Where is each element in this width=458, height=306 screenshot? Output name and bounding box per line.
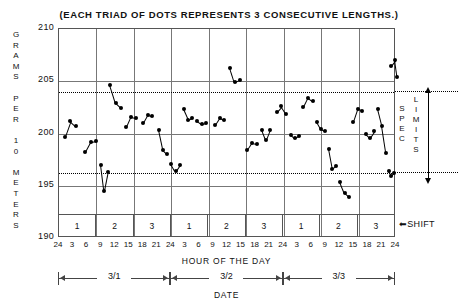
limits-letter: T [411,135,421,145]
limits-letter: L [411,95,421,105]
data-point [190,116,194,120]
y-axis-title-letter: R [10,115,22,126]
data-point [327,147,331,151]
date-axis-title: DATE [58,290,395,300]
y-axis-title-letter: M [10,168,22,179]
limits-letter: S [411,145,421,155]
data-point [260,128,264,132]
data-point [330,167,334,171]
data-point [338,180,342,184]
data-point [384,151,388,155]
lower-spec-extension [395,172,458,173]
y-axis-title-letter: S [10,221,22,232]
shift-row-label: ⬅SHIFT [399,219,435,229]
data-point [134,116,138,120]
data-point [297,134,301,138]
arrow-down-head [425,178,431,184]
x-axis-ticks: 2436912151821243691215182124369121518212… [58,240,395,252]
data-point [174,169,178,173]
data-point [83,150,87,154]
data-point [376,107,380,111]
data-point [351,120,355,124]
spec-label: SPEC [397,104,407,144]
data-point [306,96,310,100]
date-arrow-right [388,275,393,281]
data-point [94,139,98,143]
shift-cell: 2 [207,215,244,236]
shift-cell: 3 [357,215,394,236]
spec-limits-arrow [428,92,429,179]
data-point [106,170,110,174]
data-point [389,64,393,68]
shift-cell: 2 [319,215,356,236]
upper-spec-limit-line [59,92,394,93]
gridline-horizontal [59,134,394,135]
y-tick-label: 210 [28,22,54,32]
y-axis-title-letter [10,83,22,94]
spec-letter: E [397,124,407,134]
data-point [141,121,145,125]
spec-letter: C [397,134,407,144]
data-point [347,195,351,199]
gridline-vertical [134,29,135,236]
data-point [343,191,347,195]
shift-cell: 1 [59,215,95,236]
y-axis-title-letter: E [10,178,22,189]
y-axis-title-letter: R [10,41,22,52]
y-axis-title-letter: 0 [10,147,22,158]
y-axis-title-letter: G [10,30,22,41]
shift-cell: 2 [95,215,132,236]
y-tick-label: 195 [28,179,54,189]
y-axis-title-letter: A [10,51,22,62]
data-point [368,136,372,140]
limits-label: LIMITS [411,95,421,155]
shift-cell: 1 [170,215,207,236]
y-axis-title-letter: E [10,200,22,211]
y-axis-ticks: 210205200195190 [24,0,54,306]
shift-cell: 3 [133,215,170,236]
limits-letter: I [411,105,421,115]
data-point [315,120,319,124]
gridline-vertical [96,29,97,236]
x-axis-title: HOUR OF THE DAY [58,256,395,266]
data-point [165,152,169,156]
data-point [102,189,106,193]
triad-connector [381,126,386,153]
data-point [218,116,222,120]
y-axis-title-letter: T [10,189,22,200]
data-point [233,80,237,84]
data-point [157,128,161,132]
date-span: 3/2 [170,272,282,286]
y-axis-title-letter [10,157,22,168]
data-point [124,125,128,129]
y-tick-label: 205 [28,74,54,84]
date-arrow-right [276,275,281,281]
y-axis-title-letter: M [10,62,22,73]
data-point [108,83,112,87]
data-point [238,78,242,82]
data-point [364,132,368,136]
shift-cell: 3 [245,215,282,236]
limits-letter: I [411,125,421,135]
date-span: 3/3 [283,272,395,286]
data-point [150,114,154,118]
gridline-vertical [321,29,322,236]
y-axis-title-letter: P [10,94,22,105]
y-axis-title: GRAMS PER 10 METERS [10,30,22,231]
date-arrow-left [172,275,177,281]
data-point [74,124,78,128]
data-point [245,148,249,152]
data-point [275,110,279,114]
data-point [178,163,182,167]
spc-chart: (EACH TRIAD OF DOTS REPRESENTS 3 CONSECU… [0,0,458,306]
date-arrow-left [60,275,65,281]
gridline-horizontal [59,186,394,187]
limits-letter: M [411,115,421,125]
gridline-vertical [209,29,210,236]
date-label: 3/3 [322,271,356,281]
data-point [200,122,204,126]
data-point [213,123,217,127]
plot-area [58,28,395,237]
y-axis-title-letter: 1 [10,136,22,147]
gridline-horizontal [59,81,394,82]
